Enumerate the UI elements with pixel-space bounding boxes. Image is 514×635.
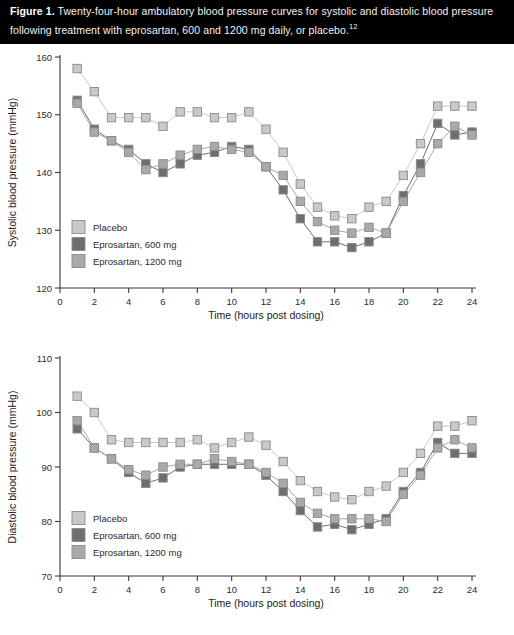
data-point-marker <box>313 238 321 246</box>
data-point-marker <box>90 87 98 95</box>
legend-swatch-placebo <box>72 221 85 234</box>
data-point-marker <box>124 148 132 156</box>
x-tick-label: 8 <box>195 296 200 307</box>
data-point-marker <box>159 160 167 168</box>
x-tick-label: 12 <box>261 296 272 307</box>
y-tick-label: 150 <box>36 109 52 120</box>
data-point-marker <box>330 493 338 501</box>
data-point-marker <box>330 238 338 246</box>
y-tick-label: 120 <box>36 283 52 294</box>
data-point-marker <box>159 168 167 176</box>
data-point-marker <box>142 113 150 121</box>
data-point-marker <box>210 142 218 150</box>
data-point-marker <box>176 151 184 159</box>
data-point-marker <box>245 108 253 116</box>
diastolic-chart-panel: 708090100110024681012141618202224Time (h… <box>0 340 514 635</box>
series-line-eprosartan_600 <box>77 100 472 247</box>
data-point-marker <box>176 108 184 116</box>
data-point-marker <box>348 496 356 504</box>
x-axis-title: Time (hours post dosing) <box>208 597 324 609</box>
data-point-marker <box>176 460 184 468</box>
data-point-marker <box>176 438 184 446</box>
data-point-marker <box>107 436 115 444</box>
data-point-marker <box>159 463 167 471</box>
x-tick-label: 2 <box>92 584 97 595</box>
data-point-marker <box>227 457 235 465</box>
data-point-marker <box>124 466 132 474</box>
data-point-marker <box>193 145 201 153</box>
x-tick-label: 22 <box>432 584 443 595</box>
data-point-marker <box>416 449 424 457</box>
data-point-marker <box>451 131 459 139</box>
data-point-marker <box>296 476 304 484</box>
data-point-marker <box>142 479 150 487</box>
data-point-marker <box>124 438 132 446</box>
data-point-marker <box>262 163 270 171</box>
legend-swatch-eprosartan_600 <box>72 529 85 542</box>
x-tick-label: 4 <box>126 296 131 307</box>
data-point-marker <box>245 460 253 468</box>
x-tick-label: 8 <box>195 584 200 595</box>
legend-swatch-eprosartan_600 <box>72 238 85 251</box>
data-point-marker <box>433 139 441 147</box>
x-tick-label: 0 <box>57 296 62 307</box>
data-point-marker <box>365 223 373 231</box>
legend-swatch-placebo <box>72 512 85 525</box>
y-tick-label: 100 <box>36 407 52 418</box>
x-tick-label: 18 <box>364 296 375 307</box>
data-point-marker <box>451 102 459 110</box>
data-point-marker <box>90 128 98 136</box>
y-axis-title: Systolic blood pressure (mmHg) <box>6 98 18 247</box>
data-point-marker <box>262 441 270 449</box>
data-point-marker <box>416 168 424 176</box>
data-point-marker <box>416 160 424 168</box>
data-point-marker <box>176 160 184 168</box>
y-tick-label: 90 <box>41 462 52 473</box>
data-point-marker <box>313 509 321 517</box>
legend-label: Placebo <box>93 222 127 233</box>
data-point-marker <box>193 108 201 116</box>
data-point-marker <box>73 99 81 107</box>
data-point-marker <box>73 392 81 400</box>
data-point-marker <box>262 468 270 476</box>
data-point-marker <box>142 471 150 479</box>
y-tick-label: 80 <box>41 516 52 527</box>
data-point-marker <box>279 457 287 465</box>
data-point-marker <box>416 471 424 479</box>
legend-label: Placebo <box>93 513 127 524</box>
x-tick-label: 16 <box>329 296 340 307</box>
data-point-marker <box>73 425 81 433</box>
figure-caption-bar: Figure 1. Twenty-four-hour ambulatory bl… <box>0 0 514 44</box>
series-line-eprosartan_1200 <box>77 103 472 233</box>
data-point-marker <box>433 119 441 127</box>
data-point-marker <box>279 148 287 156</box>
data-point-marker <box>382 229 390 237</box>
y-axis-title: Diastolic blood pressure (mmHg) <box>6 391 18 544</box>
data-point-marker <box>348 515 356 523</box>
data-point-marker <box>279 487 287 495</box>
x-tick-label: 10 <box>226 296 237 307</box>
data-point-marker <box>227 145 235 153</box>
figure-label: Figure 1. <box>10 5 55 17</box>
data-point-marker <box>451 449 459 457</box>
y-tick-label: 160 <box>36 52 52 63</box>
data-point-marker <box>193 436 201 444</box>
data-point-marker <box>365 487 373 495</box>
legend-swatch-eprosartan_1200 <box>72 255 85 268</box>
data-point-marker <box>90 444 98 452</box>
x-tick-label: 6 <box>160 296 165 307</box>
legend-swatch-eprosartan_1200 <box>72 546 85 559</box>
y-tick-label: 110 <box>37 353 52 364</box>
y-tick-label: 70 <box>41 571 52 582</box>
data-point-marker <box>365 238 373 246</box>
data-point-marker <box>210 113 218 121</box>
data-point-marker <box>416 139 424 147</box>
data-point-marker <box>433 102 441 110</box>
data-point-marker <box>365 515 373 523</box>
data-point-marker <box>73 64 81 72</box>
data-point-marker <box>296 180 304 188</box>
data-point-marker <box>451 422 459 430</box>
data-point-marker <box>348 229 356 237</box>
x-tick-label: 20 <box>398 584 409 595</box>
series-line-placebo <box>77 69 472 219</box>
